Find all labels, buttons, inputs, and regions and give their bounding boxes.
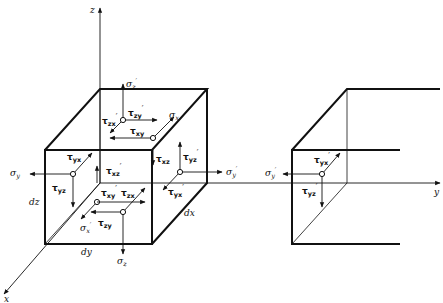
sigma-y-label: σy bbox=[10, 168, 20, 180]
tau-yx-label: τyx bbox=[67, 152, 82, 164]
top-face-stresses: σz′ τzy′ τzx′ τxy σx bbox=[102, 77, 179, 141]
cut-element: σy′ τyx′ τyz′ bbox=[265, 89, 440, 244]
tau-zx-label: τzx bbox=[121, 188, 136, 200]
stress-element-diagram: z y x dz dy dx σz′ τzy′ τzx′ τxy σx bbox=[0, 0, 443, 303]
tau-xy-prime-label: τxy′ bbox=[101, 184, 117, 200]
cube-right-edges bbox=[152, 89, 207, 244]
cut-tau-yz-prime-label: τyz′ bbox=[302, 182, 318, 198]
y-face-node bbox=[70, 171, 75, 176]
x-axis-label: x bbox=[4, 294, 9, 303]
z-face-node bbox=[120, 209, 125, 214]
cut-tau-yx-prime-label: τyx′ bbox=[314, 151, 330, 167]
tau-xz-label: τxz bbox=[156, 154, 170, 166]
cut-element-diagonal bbox=[292, 183, 347, 244]
right-face-stresses: τxz τyz′ σy′ τyx′ bbox=[153, 142, 238, 199]
dx-label: dx bbox=[184, 208, 195, 218]
tau-yz-label: τyz bbox=[52, 183, 66, 195]
dz-label: dz bbox=[29, 197, 40, 207]
top-face-node bbox=[120, 117, 125, 122]
sigma-x-prime-label: σx′ bbox=[80, 221, 92, 235]
x-face-upper-node bbox=[150, 135, 155, 140]
tau-xz-prime-label: τxz′ bbox=[106, 162, 122, 178]
dy-label: dy bbox=[81, 247, 93, 257]
sigma-z-label: σz bbox=[117, 256, 127, 268]
cut-element-top-edges bbox=[292, 89, 440, 150]
tau-zx-prime-label: τzx′ bbox=[102, 112, 118, 128]
z-axis-label: z bbox=[89, 5, 95, 15]
cut-sigma-y-prime-label: σy′ bbox=[265, 166, 277, 180]
y-face-right-node bbox=[177, 169, 182, 174]
tau-yx-prime-label: τyx′ bbox=[168, 183, 184, 199]
left-face-stresses: σy τyz τyx bbox=[10, 152, 92, 207]
cut-element-node bbox=[319, 171, 324, 176]
tau-zy-prime-label: τzy′ bbox=[128, 104, 144, 120]
tau-xy-label: τxy bbox=[130, 126, 145, 138]
x-axis bbox=[4, 183, 100, 294]
tau-zy-label: τzy bbox=[98, 218, 113, 230]
tau-yz-prime-label: τyz′ bbox=[183, 148, 199, 164]
cube-front-face bbox=[45, 150, 152, 244]
sigma-y-prime-label: σy′ bbox=[226, 165, 238, 179]
y-axis-label: y bbox=[433, 187, 440, 197]
